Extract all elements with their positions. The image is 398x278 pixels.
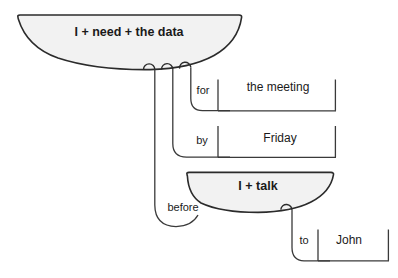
filler-label-the-meeting: the meeting [247, 80, 310, 94]
relator-label-to: to [299, 234, 308, 246]
relator-label-by: by [196, 134, 208, 146]
main-clause-label: I + need + the data [74, 25, 184, 39]
relator-label-for: for [197, 84, 210, 96]
syntax-diagram-canvas: I + need + the data for the meeting by F… [0, 0, 398, 278]
connector-to [292, 211, 330, 261]
filler-label-friday: Friday [263, 131, 296, 145]
filler-label-john: John [336, 233, 362, 247]
relator-label-before: before [167, 201, 198, 213]
main-clause-bowl [18, 15, 242, 70]
syntax-diagram-svg: I + need + the data for the meeting by F… [0, 0, 398, 278]
embedded-clause-label: I + talk [238, 179, 277, 193]
